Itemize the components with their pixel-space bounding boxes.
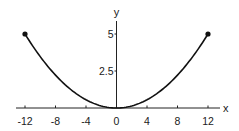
x-tick-label: -12 [17, 115, 32, 127]
y-ticks: 2.55 [99, 28, 117, 77]
y-tick-label: 2.5 [99, 65, 114, 77]
parabola-chart: x y -12-8-404812 2.55 [0, 0, 239, 131]
x-tick-label: -4 [81, 115, 90, 127]
x-tick-label: 8 [175, 115, 181, 127]
endpoint-dot [22, 31, 27, 36]
x-tick-label: 12 [202, 115, 214, 127]
x-tick-label: -8 [51, 115, 60, 127]
endpoint-dot [205, 31, 210, 36]
x-axis-label: x [223, 102, 229, 114]
y-axis-label: y [114, 6, 120, 18]
x-tick-label: 4 [144, 115, 150, 127]
x-tick-label: 0 [114, 115, 120, 127]
y-tick-label: 5 [108, 28, 114, 40]
